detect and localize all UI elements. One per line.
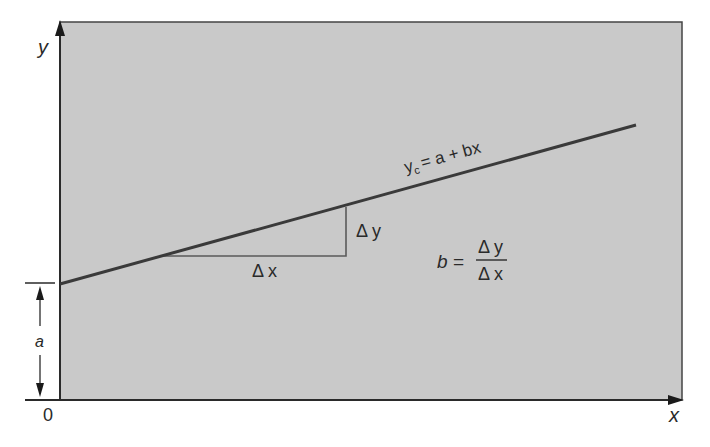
intercept-label: a [35, 333, 44, 350]
slope-formula-numerator: Δ y [478, 237, 503, 257]
delta-x-label: Δ x [252, 261, 277, 281]
y-axis-label: y [36, 36, 49, 58]
slope-formula-denominator: Δ x [478, 264, 503, 284]
delta-y-label: Δ y [356, 221, 381, 241]
plot-area [60, 22, 682, 400]
x-axis-label: x [668, 404, 680, 426]
intercept-arrow-down-icon [36, 383, 44, 397]
regression-diagram: y x 0 a Δ x Δ y yc= a + bx b = Δ y Δ x [0, 0, 710, 447]
slope-formula-lhs: b = [437, 251, 464, 272]
intercept-arrow-up-icon [36, 286, 44, 300]
origin-label: 0 [43, 405, 53, 425]
